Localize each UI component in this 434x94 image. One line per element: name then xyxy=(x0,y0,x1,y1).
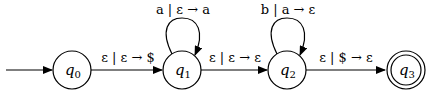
state-q0: q0 xyxy=(53,51,91,89)
pda-diagram: q0 q1 q2 q3 ε | ε → $ a | ε → a ε | ε → … xyxy=(0,0,434,94)
state-q1: q1 xyxy=(163,51,201,89)
state-q2: q2 xyxy=(268,51,306,89)
label-loop-q1: a | ε → a xyxy=(156,2,210,17)
state-q3-accepting: q3 xyxy=(387,51,425,89)
label-q0-q1: ε | ε → $ xyxy=(101,50,155,65)
label-q1-q2: ε | ε → ε xyxy=(209,50,261,65)
loop-q2 xyxy=(271,18,304,55)
loop-q1 xyxy=(166,18,199,55)
label-loop-q2: b | a → ε xyxy=(261,2,316,17)
label-q2-q3: ε | $ → ε xyxy=(319,50,373,65)
